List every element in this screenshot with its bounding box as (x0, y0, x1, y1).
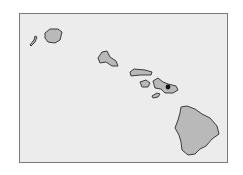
hawaii-map (0, 0, 243, 175)
island-hawaii (175, 106, 219, 155)
island-lanai (140, 80, 150, 87)
island-molokai (130, 69, 152, 76)
island-kahoolawe (152, 93, 160, 98)
island-niihau (30, 36, 37, 46)
island-oahu (98, 51, 118, 66)
island-maui (153, 78, 178, 93)
location-marker-icon (166, 85, 171, 90)
island-kauai (45, 29, 62, 43)
